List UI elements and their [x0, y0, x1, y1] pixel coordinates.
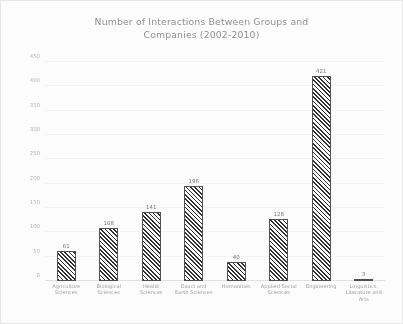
bar-item: 128: [258, 62, 301, 281]
y-tick-label: 300: [30, 126, 40, 132]
bar: [354, 279, 373, 281]
bar-value-label: 196: [189, 178, 199, 184]
bar: [312, 76, 331, 281]
bar-value-label: 421: [316, 68, 326, 74]
bar: [269, 219, 288, 281]
bar-item: 141: [130, 62, 173, 281]
y-tick-label: 400: [30, 77, 40, 83]
bar-value-label: 141: [146, 204, 156, 210]
bar-value-label: 61: [63, 243, 70, 249]
y-tick-label: 100: [30, 223, 40, 229]
x-tick-label: Exact and Earth Sciences: [173, 283, 216, 302]
bar-item: 61: [45, 62, 88, 281]
x-axis-labels: Agriculture Sciences Biological Sciences…: [45, 283, 385, 302]
bar: [227, 262, 246, 281]
bar-value-label: 40: [233, 254, 240, 260]
chart-figure: Number of Interactions Between Groups an…: [0, 0, 403, 324]
bar-value-label: 128: [274, 211, 284, 217]
bar-item: 196: [173, 62, 216, 281]
y-tick-label: 350: [30, 102, 40, 108]
bar-item: 40: [215, 62, 258, 281]
bar: [184, 186, 203, 281]
bar: [99, 228, 118, 281]
y-tick-label: 200: [30, 175, 40, 181]
bar-item: 108: [88, 62, 131, 281]
x-tick-label: Health Sciences: [130, 283, 173, 302]
bar-series: 61 108 141 196 40 128: [45, 62, 385, 281]
x-tick-label: Biological Sciences: [88, 283, 131, 302]
bar-value-label: 108: [104, 220, 114, 226]
bar: [142, 212, 161, 281]
x-tick-label: Engineering: [300, 283, 343, 302]
y-tick-label: 250: [30, 150, 40, 156]
y-tick-label: 50: [33, 248, 40, 254]
x-tick-label: Linguistics, Literature and Arts: [343, 283, 386, 302]
x-tick-label: Applied Social Sciences: [258, 283, 301, 302]
bar: [57, 251, 76, 281]
y-tick-label: 0: [37, 272, 40, 278]
chart-title: Number of Interactions Between Groups an…: [1, 15, 402, 41]
bar-item: 421: [300, 62, 343, 281]
y-tick-label: 450: [30, 53, 40, 59]
y-tick-label: 150: [30, 199, 40, 205]
bar-value-label: 3: [362, 271, 365, 277]
bar-item: 3: [343, 62, 386, 281]
x-tick-label: Humanities: [215, 283, 258, 302]
x-tick-label: Agriculture Sciences: [45, 283, 88, 302]
plot-area: 450 400 350 300 250 200 150 100 50 0 61 …: [45, 62, 385, 281]
